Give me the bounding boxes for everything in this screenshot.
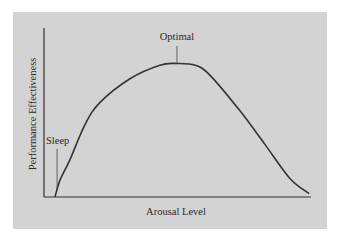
optimal-annotation: Optimal xyxy=(160,31,194,42)
chart: Sleep Optimal Arousal Level Performance … xyxy=(0,0,346,241)
y-axis-label: Performance Effectiveness xyxy=(27,58,38,171)
series-line-performance xyxy=(55,63,309,197)
sleep-annotation: Sleep xyxy=(46,135,69,146)
x-axis-label: Arousal Level xyxy=(146,206,206,217)
